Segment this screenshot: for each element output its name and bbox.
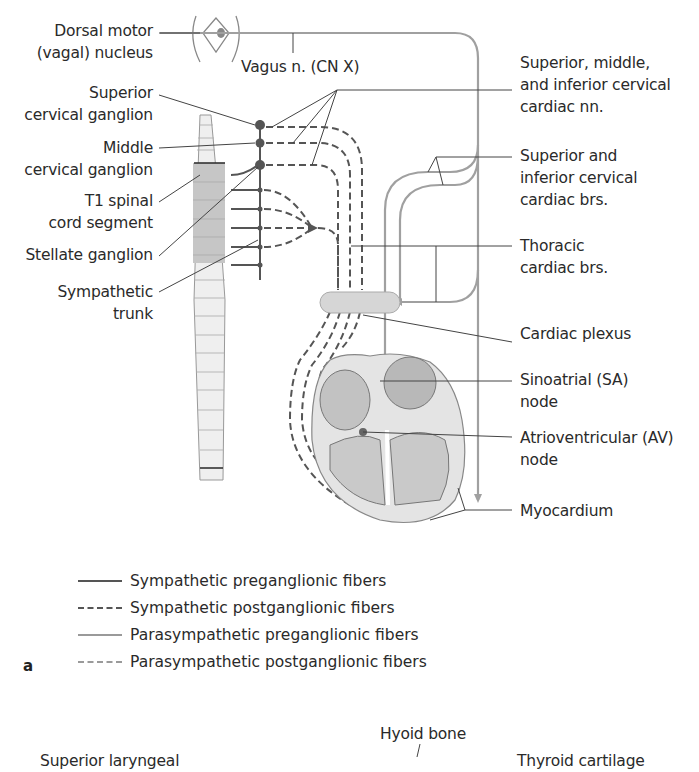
label-myocardium: Myocardium: [520, 500, 613, 522]
label-cervical-cardiac-branches: Superior and inferior cervical cardiac b…: [520, 145, 637, 211]
label-stellate-ganglion: Stellate ganglion: [25, 244, 153, 266]
label-t1-spinal-cord-segment: T1 spinal cord segment: [49, 190, 153, 234]
label-dorsal-motor-nucleus: Dorsal motor (vagal) nucleus: [37, 20, 153, 64]
panel-letter: a: [23, 657, 33, 675]
spinal-cord-icon: [193, 115, 225, 480]
label-sa-node: Sinoatrial (SA) node: [520, 369, 628, 413]
brainstem-icon: [193, 16, 239, 62]
solid-light-line-icon: [78, 634, 122, 636]
label-cardiac-plexus: Cardiac plexus: [520, 323, 631, 345]
superior-cervical-ganglion-icon: [255, 120, 265, 130]
solid-dark-line-icon: [78, 580, 122, 582]
label-thoracic-cardiac-branches: Thoracic cardiac brs.: [520, 235, 608, 279]
label-av-node: Atrioventricular (AV) node: [520, 427, 673, 471]
label-hyoid-bone: Hyoid bone: [380, 723, 466, 745]
label-cut-right: Thyroid cartilage: [517, 750, 645, 772]
dashed-light-line-icon: [78, 661, 122, 663]
middle-cervical-ganglion-icon: [256, 139, 265, 148]
label-middle-cervical-ganglion: Middle cervical ganglion: [24, 137, 153, 181]
dashed-dark-line-icon: [78, 607, 122, 609]
label-cut-left: Superior laryngeal: [40, 750, 179, 772]
label-superior-cervical-ganglion: Superior cervical ganglion: [24, 82, 153, 126]
label-cervical-cardiac-nerves: Superior, middle, and inferior cervical …: [520, 52, 671, 118]
label-sympathetic-trunk: Sympathetic trunk: [57, 281, 153, 325]
label-vagus-nerve: Vagus n. (CN X): [241, 56, 359, 78]
heart-icon: [312, 354, 465, 523]
cardiac-plexus-icon: [320, 292, 400, 313]
